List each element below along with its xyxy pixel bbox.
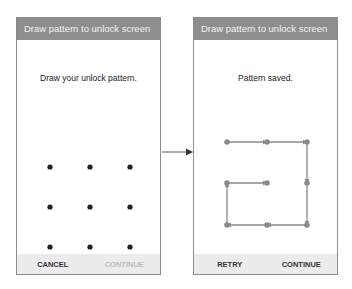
pattern-node [264,180,270,186]
pattern-node [304,180,310,186]
retry-button[interactable]: RETRY [194,254,266,274]
pattern-dot-8[interactable] [87,244,92,249]
pattern-node [304,222,310,228]
button-bar: RETRY CONTINUE [194,254,337,274]
pattern-node [304,139,310,145]
pattern-node [264,222,270,228]
button-bar: CANCEL CONTINUE [17,254,160,274]
pattern-grid[interactable] [17,18,162,276]
cancel-button[interactable]: CANCEL [17,254,89,274]
pattern-dot-9[interactable] [127,244,132,249]
saved-pattern [194,18,339,276]
right-arrow-icon [162,146,194,158]
pattern-dot-6[interactable] [127,204,132,209]
right-screen: Draw pattern to unlock screen Pattern sa… [193,17,338,275]
pattern-node [264,139,270,145]
continue-button[interactable]: CONTINUE [89,254,161,274]
pattern-node [224,180,230,186]
left-screen: Draw pattern to unlock screen Draw your … [16,17,161,275]
pattern-dot-1[interactable] [47,164,52,169]
pattern-dot-2[interactable] [87,164,92,169]
pattern-node [224,139,230,145]
pattern-dot-5[interactable] [87,204,92,209]
pattern-node [224,222,230,228]
continue-button[interactable]: CONTINUE [266,254,338,274]
pattern-dot-3[interactable] [127,164,132,169]
pattern-dot-4[interactable] [47,204,52,209]
pattern-dot-7[interactable] [47,244,52,249]
